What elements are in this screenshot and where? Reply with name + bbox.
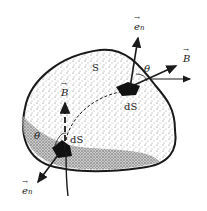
bottom-field-symbol: B xyxy=(61,88,68,98)
magnetic-flux-surface-diagram xyxy=(0,0,207,211)
bottom-area-label: dS xyxy=(70,135,83,145)
top-normal-symbol: e xyxy=(134,22,140,32)
top-normal-label: en xyxy=(134,22,144,32)
top-normal-subscript: n xyxy=(140,24,145,32)
bottom-normal-subscript: n xyxy=(28,188,33,196)
bottom-normal-label: en xyxy=(22,186,32,196)
bottom-angle-label: θ xyxy=(34,131,40,141)
top-angle-label: θ xyxy=(144,64,150,74)
bottom-normal-symbol: e xyxy=(22,186,28,196)
top-area-label: dS xyxy=(124,102,137,112)
top-field-label: B xyxy=(183,54,190,64)
bottom-field-label: B xyxy=(61,88,68,98)
top-field-symbol: B xyxy=(183,54,190,64)
surface-label: S xyxy=(92,63,99,73)
